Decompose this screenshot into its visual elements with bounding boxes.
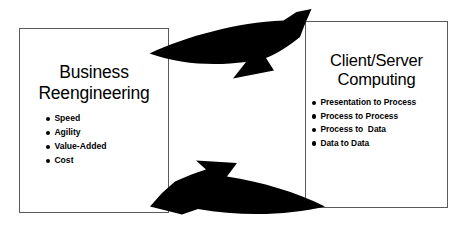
list-item: Process to Data	[312, 123, 447, 137]
list-item-label: Value-Added	[54, 140, 106, 154]
list-item: Value-Added	[46, 140, 168, 154]
right-panel-title: Client/Server Computing	[306, 51, 447, 90]
right-panel-bullet-list: Presentation to Process Process to Proce…	[312, 96, 447, 150]
list-item-label: Data to Data	[320, 137, 369, 151]
list-item: Presentation to Process	[312, 96, 447, 110]
bullet-dot-icon	[46, 131, 50, 135]
business-reengineering-panel: Business Reengineering Speed Agility Val…	[19, 28, 169, 213]
bullet-dot-icon	[312, 141, 316, 145]
list-item: Agility	[46, 126, 168, 140]
list-item-label: Process to Data	[320, 123, 386, 137]
bottom-arrow-icon	[150, 161, 325, 215]
list-item-label: Speed	[54, 112, 80, 126]
list-item: Speed	[46, 112, 168, 126]
left-panel-title: Business Reengineering	[20, 62, 168, 103]
top-arrow-icon	[150, 9, 312, 79]
client-server-computing-panel: Client/Server Computing Presentation to …	[305, 21, 448, 208]
list-item: Process to Process	[312, 110, 447, 124]
list-item: Cost	[46, 154, 168, 168]
left-panel-title-line2: Reengineering	[20, 83, 168, 104]
list-item-label: Process to Process	[320, 110, 398, 124]
list-item: Data to Data	[312, 137, 447, 151]
right-panel-title-line1: Client/Server	[306, 51, 447, 70]
bullet-dot-icon	[312, 101, 316, 105]
right-panel-title-line2: Computing	[306, 70, 447, 89]
list-item-label: Presentation to Process	[320, 96, 416, 110]
bullet-dot-icon	[46, 117, 50, 121]
bullet-dot-icon	[46, 159, 50, 163]
diagram-canvas: Business Reengineering Speed Agility Val…	[0, 0, 465, 230]
left-panel-title-line1: Business	[20, 62, 168, 83]
bullet-dot-icon	[312, 114, 316, 118]
list-item-label: Cost	[54, 154, 73, 168]
bullet-dot-icon	[46, 145, 50, 149]
list-item-label: Agility	[54, 126, 80, 140]
left-panel-bullet-list: Speed Agility Value-Added Cost	[46, 112, 168, 168]
bullet-dot-icon	[312, 128, 316, 132]
